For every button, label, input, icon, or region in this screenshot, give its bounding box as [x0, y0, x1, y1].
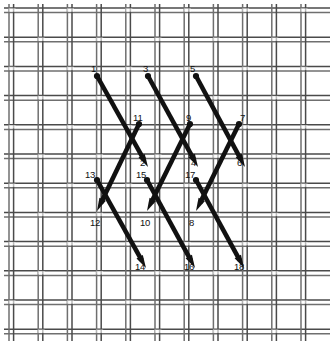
weave-nick: [9, 125, 16, 128]
weave-nick: [67, 8, 74, 11]
weave-nick: [271, 271, 278, 274]
weave-nick: [38, 38, 45, 41]
weave-nick: [213, 154, 220, 157]
weave-nick: [96, 271, 103, 274]
weave-nick: [242, 8, 249, 11]
weave-nick: [242, 300, 249, 303]
grid-weave-nicks: [9, 8, 308, 333]
weave-nick: [301, 242, 308, 245]
weave-nick: [271, 213, 278, 216]
point-label-7: 7: [240, 113, 245, 123]
weave-nick: [301, 125, 308, 128]
weave-nick: [67, 300, 74, 303]
weave-nick: [155, 271, 162, 274]
weave-nick: [301, 67, 308, 70]
weave-nick: [96, 330, 103, 333]
weave-nick: [301, 300, 308, 303]
stitch-11-12: [97, 121, 142, 211]
stitch-diagram-figure: 123456789101112131415161718: [0, 0, 334, 345]
weave-nick: [125, 300, 132, 303]
point-label-13: 13: [85, 170, 95, 180]
stitch-9-10: [147, 121, 193, 211]
weave-nick: [96, 96, 103, 99]
weave-nick: [155, 38, 162, 41]
weave-nick: [38, 330, 45, 333]
weave-nick: [125, 67, 132, 70]
weave-nick: [38, 154, 45, 157]
point-label-10: 10: [140, 218, 150, 228]
weave-nick: [67, 67, 74, 70]
point-label-12: 12: [90, 218, 100, 228]
stitch-7-8: [196, 121, 242, 211]
stitch-5-6: [193, 73, 245, 167]
weave-nick: [155, 330, 162, 333]
weave-nick: [271, 96, 278, 99]
weave-nick: [96, 154, 103, 157]
point-label-14: 14: [135, 262, 145, 272]
stitch-15-16: [144, 177, 195, 268]
point-label-18: 18: [234, 262, 244, 272]
point-label-2: 2: [140, 158, 145, 168]
point-label-1: 1: [91, 64, 96, 74]
point-label-6: 6: [237, 158, 242, 168]
weave-nick: [301, 8, 308, 11]
weave-nick: [184, 300, 191, 303]
weave-nick: [242, 67, 249, 70]
weave-nick: [9, 184, 16, 187]
weave-nick: [67, 242, 74, 245]
weave-nick: [271, 330, 278, 333]
diagram-canvas: [0, 0, 334, 345]
stitch-shaft: [200, 124, 239, 203]
weave-nick: [9, 300, 16, 303]
stitch-layer: [94, 73, 245, 268]
point-label-15: 15: [136, 170, 146, 180]
weave-nick: [213, 38, 220, 41]
point-label-5: 5: [190, 64, 195, 74]
weave-nick: [9, 8, 16, 11]
point-label-11: 11: [133, 113, 142, 123]
weave-nick: [271, 154, 278, 157]
weave-nick: [242, 184, 249, 187]
weave-nick: [213, 330, 220, 333]
weave-nick: [38, 271, 45, 274]
weave-nick: [67, 184, 74, 187]
weave-nick: [271, 38, 278, 41]
weave-nick: [9, 242, 16, 245]
weave-nick: [242, 242, 249, 245]
weave-nick: [67, 125, 74, 128]
stitch-shaft: [97, 180, 142, 260]
weave-nick: [125, 184, 132, 187]
weave-nick: [184, 184, 191, 187]
weave-nick: [38, 96, 45, 99]
weave-nick: [155, 154, 162, 157]
point-label-9: 9: [186, 113, 191, 123]
point-label-3: 3: [143, 64, 148, 74]
weave-nick: [38, 213, 45, 216]
weave-nick: [96, 213, 103, 216]
point-label-8: 8: [189, 218, 194, 228]
weave-nick: [96, 38, 103, 41]
stitch-shaft: [101, 124, 139, 203]
weave-nick: [213, 96, 220, 99]
grid-vertical-threads: [9, 4, 306, 341]
point-label-4: 4: [191, 158, 196, 168]
weave-nick: [9, 67, 16, 70]
weave-nick: [125, 8, 132, 11]
weave-nick: [184, 8, 191, 11]
weave-nick: [301, 184, 308, 187]
point-label-17: 17: [185, 170, 195, 180]
weave-nick: [213, 271, 220, 274]
weave-nick: [155, 213, 162, 216]
weave-nick: [242, 125, 249, 128]
point-label-16: 16: [184, 262, 194, 272]
